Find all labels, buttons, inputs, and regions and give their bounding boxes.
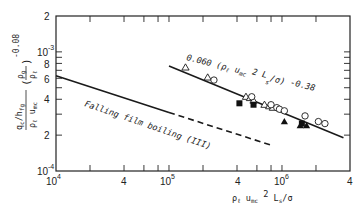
x-tick-label: 10 (274, 176, 286, 187)
y-tick-label: 10 (37, 47, 49, 58)
svg-text:0.060 (ρℓ umc 2 Ls/σ) -0.38: 0.060 (ρℓ umc 2 Ls/σ) -0.38 (185, 50, 317, 97)
y-tick-label: -3 (48, 44, 54, 51)
open-circle-marker (281, 108, 287, 114)
filled-square-marker (236, 100, 242, 106)
svg-text:ρℓ umc 2 Ls/σ: ρℓ umc 2 Ls/σ (232, 189, 293, 204)
svg-text:ρℓ umc: ρℓ umc (27, 101, 38, 128)
svg-text:ρg: ρg (16, 70, 27, 79)
y-tick-label: 8 (44, 59, 50, 70)
y-tick-label: 2 (44, 130, 50, 141)
y-tick-label: 6 (44, 74, 50, 85)
open-circle-marker (302, 113, 308, 119)
x-tick-label: 4 (57, 173, 61, 180)
svg-text:): ) (20, 58, 33, 65)
chart-container: 2 10 -3 8 6 4 2 10 -4 10 4 4 10 5 4 10 6… (0, 0, 361, 215)
correlation-annotation: 0.060 (ρℓ umc 2 Ls/σ) -0.38 (185, 50, 317, 97)
svg-text:ρℓ: ρℓ (28, 71, 38, 79)
y-tick-label: -4 (48, 163, 54, 170)
y-axis-label: qc/hfg ρℓ umc ( ρg ρℓ ) -0.08 (12, 34, 38, 130)
x-axis-label: ρℓ umc 2 Ls/σ (232, 189, 293, 204)
open-circle-marker (315, 118, 321, 124)
svg-text:-0.08: -0.08 (12, 34, 21, 58)
open-triangle-marker (182, 64, 189, 70)
x-tick-label: 10 (160, 176, 172, 187)
x-tick-label: 10 (46, 176, 58, 187)
open-triangle-marker (204, 74, 211, 80)
y-tick-label: 4 (44, 94, 50, 105)
filled-square-marker (251, 102, 257, 108)
x-tick-label: 4 (121, 176, 127, 187)
open-circle-marker (249, 94, 255, 100)
chart-svg: 2 10 -3 8 6 4 2 10 -4 10 4 4 10 5 4 10 6… (0, 0, 361, 215)
x-tick-label: 4 (235, 176, 241, 187)
x-tick-label: 5 (171, 173, 175, 180)
x-tick-label: 6 (285, 173, 289, 180)
open-circle-marker (211, 77, 217, 83)
filled-triangle-marker (281, 118, 288, 124)
y-tick-label: 2 (44, 11, 50, 22)
svg-text:qc/hfg: qc/hfg (14, 103, 26, 130)
open-circle-marker (322, 120, 328, 126)
svg-text:(: ( (20, 79, 33, 86)
x-tick-label: 4 (347, 176, 353, 187)
